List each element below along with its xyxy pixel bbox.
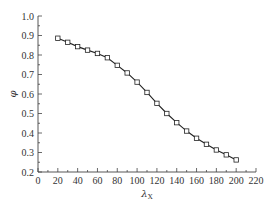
x-tick-label: 20 [53,175,63,186]
data-point-square-marker [155,101,159,105]
data-point-square-marker [105,56,109,60]
y-tick-label: 0.4 [22,128,35,139]
data-point-square-marker [165,111,169,115]
y-tick-label: 0.8 [22,50,35,61]
data-point-square-marker [204,142,208,146]
x-tick-label: 100 [130,175,145,186]
y-tick-label: 0.9 [22,30,35,41]
x-tick-label: 0 [36,175,41,186]
y-tick-label: 1.0 [22,11,35,22]
data-point-square-marker [194,136,198,140]
x-axis-label-sub: X [148,193,153,201]
y-tick-label: 0.6 [22,89,35,100]
x-tick-label: 40 [73,175,83,186]
data-point-square-marker [234,158,238,162]
data-point-square-marker [175,120,179,124]
x-tick-label: 200 [229,175,244,186]
y-axis-ticks: 0.20.30.40.50.60.70.80.91.0 [22,11,43,178]
data-point-square-marker [56,36,60,40]
data-point-square-marker [125,71,129,75]
data-point-square-marker [145,90,149,94]
y-tick-label: 0.5 [22,108,35,119]
y-tick-label: 0.7 [22,69,35,80]
x-axis-ticks: 020406080100120140160180200220 [36,168,264,186]
y-axis-label: φ [7,90,18,97]
data-point-square-marker [95,51,99,55]
data-point-square-marker [224,153,228,157]
x-tick-label: 80 [112,175,122,186]
x-tick-label: 160 [189,175,204,186]
x-tick-label: 180 [209,175,224,186]
data-point-square-marker [115,63,119,67]
series-line [58,38,236,160]
data-point-square-marker [184,129,188,133]
data-point-square-marker [75,44,79,48]
line-chart: 0.20.30.40.50.60.70.80.91.0 020406080100… [0,0,276,212]
data-series [56,36,239,162]
data-point-square-marker [85,48,89,52]
data-point-square-marker [66,40,70,44]
data-point-square-marker [135,80,139,84]
data-point-square-marker [214,148,218,152]
x-tick-label: 120 [149,175,164,186]
x-tick-label: 60 [92,175,102,186]
x-axis-label-main: λ [140,188,147,199]
x-tick-label: 220 [249,175,264,186]
y-tick-label: 0.2 [22,167,35,178]
x-tick-label: 140 [169,175,184,186]
y-tick-label: 0.3 [22,147,35,158]
x-axis-label: λX [140,188,152,201]
